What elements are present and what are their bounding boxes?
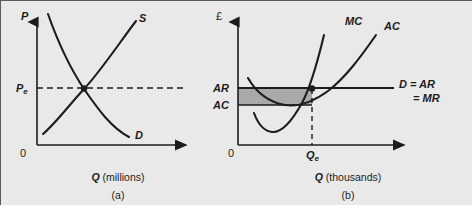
marginal-cost-curve-label: MC [345,16,362,27]
quantity-label-subscript: e [315,154,319,163]
panel-a-origin-label: 0 [20,148,26,159]
panel-a-x-axis-symbol: Q [91,171,99,183]
panel-b-x-axis-units: (thousands) [323,171,381,183]
equilibrium-point-a [81,85,87,91]
panel-a-caption: (a) [58,190,178,201]
panel-a-x-axis-units: (millions) [100,171,145,183]
panel-b-x-axis-symbol: Q [315,171,323,183]
panel-b-caption: (b) [288,190,408,201]
demand-ar-line-label-first: D = AR [399,79,435,90]
panel-b-ar-level-label: AR [213,83,229,94]
price-label-subscript: e [23,87,27,96]
figure-vector-layer [0,0,472,220]
supply-curve-label: S [139,13,146,24]
panel-b-x-axis-caption: Q (thousands) [288,172,408,183]
average-cost-curve-label: AC [384,21,400,32]
panel-b-origin-label: 0 [228,148,234,159]
economics-figure: P Pe 0 S D Q (millions) (a) £ AR AC 0 MC… [0,0,472,220]
demand-ar-line-label-second: = MR [413,93,440,104]
panel-a-y-axis-label: P [21,11,28,22]
equilibrium-quantity-label: Qe [306,150,319,163]
panel-b-y-axis-label: £ [216,11,222,22]
panel-b-ac-level-label: AC [213,100,229,111]
demand-curve-a [48,14,129,137]
marginal-cost-curve [254,35,324,132]
panel-a-x-axis-caption: Q (millions) [58,172,178,183]
panel-a-price-equilibrium-label: Pe [16,83,28,96]
demand-curve-label: D [135,130,143,141]
